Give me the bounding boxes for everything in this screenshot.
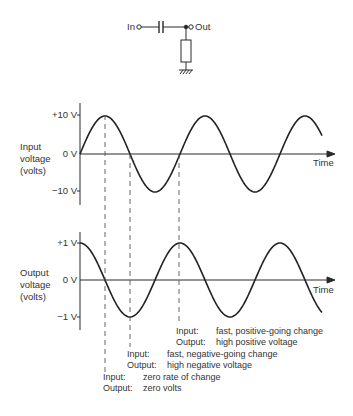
time-arrow-icon [327,277,335,283]
output-tick-zero: 0 V [63,274,77,285]
input-tick-zero: 0 V [63,148,77,159]
output-y-label-line: (volts) [20,291,51,303]
output-y-label-line: voltage [20,279,51,291]
annotation-text: fast, negative-going change [167,349,278,359]
circuit-out-label: Out [195,21,210,32]
annotation-key: Input: [103,372,143,383]
output-y-label-line: Output [20,267,51,279]
annotation-text: fast, positive-going change [216,326,323,336]
annotation-key: Input: [176,326,216,337]
ground-icon [179,70,193,74]
input-y-label: Input voltage (volts) [20,141,51,177]
annotation-text: zero rate of change [143,372,221,382]
annotation-key: Output: [127,360,167,371]
output-tick-plus1: +1 V [57,237,77,248]
output-x-label: Time [313,284,334,295]
annotation-key: Output: [103,383,143,394]
input-terminal-icon [137,25,141,29]
annotation-zero-rate: Input:zero rate of change Output:zero vo… [103,372,221,394]
annotation-key: Output: [176,337,216,348]
circuit [137,21,193,74]
output-tick-minus1: −1 V [57,311,77,322]
output-y-label: Output voltage (volts) [20,267,51,303]
resistor-icon [181,40,191,62]
annotation-key: Input: [127,349,167,360]
annotation-text: zero volts [143,383,182,393]
output-terminal-icon [189,25,193,29]
annotation-text: high negative voltage [167,360,252,370]
input-y-label-line: voltage [20,153,51,165]
input-tick-minus10: −10 V [52,185,77,196]
input-y-label-line: Input [20,141,51,153]
input-axes [77,103,335,205]
annotation-text: high positive voltage [216,337,298,347]
input-x-label: Time [313,157,334,168]
circuit-in-label: In [127,21,135,32]
annotation-positive-going: Input:fast, positive-going change Output… [176,326,323,348]
input-y-label-line: (volts) [20,165,51,177]
annotation-negative-going: Input:fast, negative-going change Output… [127,349,278,371]
input-tick-plus10: +10 V [52,109,77,120]
